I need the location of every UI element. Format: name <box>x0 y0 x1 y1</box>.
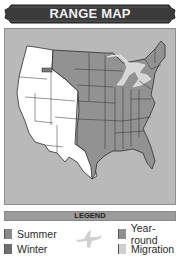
us-map <box>5 29 177 206</box>
summer-swatch-icon <box>4 229 12 239</box>
year-round-swatch-icon <box>118 229 126 239</box>
winter-swatch-icon <box>4 244 12 254</box>
bird-silhouette-icon <box>74 228 104 250</box>
legend-title-bar: LEGEND <box>4 211 176 221</box>
header-title: RANGE MAP <box>3 4 177 24</box>
summer-patch <box>42 68 52 72</box>
legend-item-year-round: Year-round <box>118 228 180 240</box>
legend-item-summer: Summer <box>4 228 57 240</box>
range-map-header: RANGE MAP <box>3 4 177 24</box>
legend-label-migration: Migration <box>131 243 174 255</box>
legend-label-winter: Winter <box>17 243 47 255</box>
legend-item-migration: Migration <box>118 243 174 255</box>
legend-item-winter: Winter <box>4 243 47 255</box>
legend-label-summer: Summer <box>17 228 57 240</box>
range-map <box>4 28 176 205</box>
migration-swatch-icon <box>118 244 126 254</box>
